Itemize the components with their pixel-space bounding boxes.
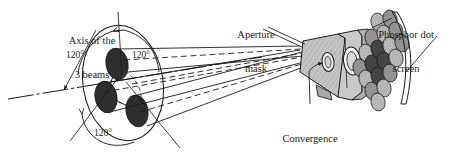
angle-label-lower: 120° [86, 128, 120, 138]
phosphor-label-line1: Phosphor dot [363, 29, 449, 40]
aperture-mask-label: Aperture mask [218, 6, 294, 97]
crt-diagram-figure: Axis of the 3 beams Aperture mask Phosph… [0, 0, 451, 162]
convergence-point-label: Convergence point [262, 110, 358, 162]
angle-label-upper-left: 120° [58, 50, 92, 60]
axis-label-line1: Axis of the [46, 35, 138, 46]
convergence-label-line1: Convergence [262, 133, 358, 144]
phosphor-label-line2: screen [363, 63, 449, 74]
aperture-label-line2: mask [218, 63, 294, 74]
aperture-label-line1: Aperture [218, 29, 294, 40]
phosphor-dot-screen-label: Phosphor dot screen [363, 6, 449, 97]
angle-label-upper-right: 120° [124, 50, 158, 60]
axis-label-line2: 3 beams [46, 69, 138, 80]
